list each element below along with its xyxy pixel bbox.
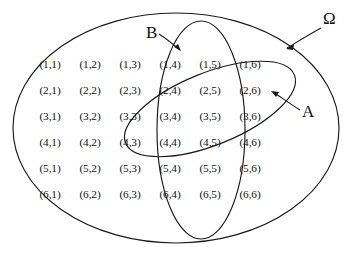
set-b-label: B [146,23,157,42]
outcome-cell: (1,4) [159,58,180,71]
outcome-row: (3,1) (3,2) (3,3) (3,4) (3,5) (3,6) [39,110,260,123]
outcome-row: (6,1) (6,2) (6,3) (6,4) (6,5) (6,6) [39,188,260,201]
outcome-cell: (2,6) [239,84,260,97]
outcome-cell: (6,6) [239,188,260,201]
outcome-cell: (4,3) [119,136,140,149]
outcome-cell: (5,1) [39,162,60,175]
outcome-cell: (6,5) [199,188,220,201]
outcome-cell: (1,3) [119,58,140,71]
outcome-cell: (3,6) [239,110,260,123]
omega-leader-line [287,28,321,48]
venn-diagram-figure: Ω B A (1,1) (1,2) (1,3) (1,4) (1,5) (1,6… [0,0,355,257]
venn-diagram-canvas: Ω B A (1,1) (1,2) (1,3) (1,4) (1,5) (1,6… [0,0,355,257]
outcome-cell: (2,3) [119,84,140,97]
outcome-cell: (1,5) [199,58,220,71]
outcome-cell: (2,5) [199,84,220,97]
outcome-row: (4,1) (4,2) (4,3) (4,4) (4,5) (4,6) [39,136,260,149]
outcome-cell: (3,1) [39,110,60,123]
outcome-cell: (5,5) [199,162,220,175]
set-a-arrow-head [271,91,279,97]
set-a-label: A [302,102,315,121]
outcome-cell: (4,5) [199,136,220,149]
outcome-cell: (3,4) [159,110,180,123]
outcome-cell: (1,2) [79,58,100,71]
omega-label: Ω [323,9,336,28]
outcome-cell: (4,2) [79,136,100,149]
outcome-grid: (1,1) (1,2) (1,3) (1,4) (1,5) (1,6) (2,1… [39,58,260,201]
outcome-cell: (2,1) [39,84,60,97]
outcome-cell: (3,2) [79,110,100,123]
set-b-arrow-head [174,44,181,51]
outcome-row: (1,1) (1,2) (1,3) (1,4) (1,5) (1,6) [39,58,260,71]
outcome-cell: (5,6) [239,162,260,175]
outcome-cell: (6,4) [159,188,180,201]
outcome-row: (5,1) (5,2) (5,3) (5,4) (5,5) (5,6) [39,162,260,175]
set-b-ellipse [157,21,245,239]
outcome-cell: (5,4) [159,162,180,175]
outcome-cell: (3,3) [119,110,140,123]
outcome-cell: (4,6) [239,136,260,149]
outcome-cell: (2,2) [79,84,100,97]
outcome-cell: (4,1) [39,136,60,149]
outcome-cell: (5,3) [119,162,140,175]
outcome-cell: (5,2) [79,162,100,175]
outcome-cell: (2,4) [159,84,180,97]
outcome-cell: (6,3) [119,188,140,201]
outcome-cell: (1,6) [239,58,260,71]
outcome-cell: (1,1) [39,58,60,71]
omega-arrow-head [286,44,294,50]
outcome-row: (2,1) (2,2) (2,3) (2,4) (2,5) (2,6) [39,84,260,97]
outcome-cell: (6,2) [79,188,100,201]
outcome-cell: (6,1) [39,188,60,201]
outcome-cell: (3,5) [199,110,220,123]
outcome-cell: (4,4) [159,136,180,149]
